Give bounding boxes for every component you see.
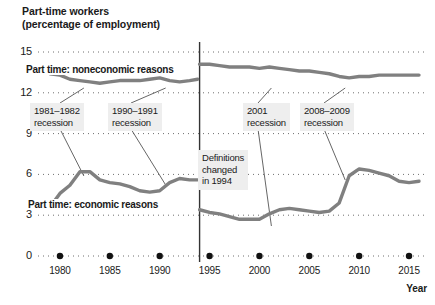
y-axis-tick-label: 0 <box>10 249 32 261</box>
annotation-recession-2001: 2001recession <box>243 103 290 131</box>
annotation-recession-1981-1982: 1981–1982recession <box>30 103 84 131</box>
annotation-line-2: changed <box>202 164 244 176</box>
y-axis-tick-label: 12 <box>10 86 32 98</box>
x-axis-tick-label: 1990 <box>140 265 180 276</box>
annotation-line-1: 2008–2009 <box>304 105 350 117</box>
x-axis-tick-label: 1995 <box>190 265 230 276</box>
annotation-line-2: recession <box>304 117 350 129</box>
annotation-line-1: 2001 <box>247 105 286 117</box>
x-axis-tick-label: 2000 <box>239 265 279 276</box>
x-axis-title: Year <box>406 283 427 294</box>
x-axis-tick-label: 2010 <box>339 265 379 276</box>
annotation-line-3: in 1994 <box>202 175 244 187</box>
annotation-recession-2008-2009: 2008–2009recession <box>300 103 354 131</box>
annotation-line-1: 1981–1982 <box>34 105 80 117</box>
y-axis-tick-label: 9 <box>10 127 32 139</box>
x-axis-tick-label: 1985 <box>90 265 130 276</box>
chart-container: Part-time workers (percentage of employm… <box>0 0 435 305</box>
annotation-line-2: recession <box>112 117 158 129</box>
x-axis-tick-label: 1980 <box>40 265 80 276</box>
annotation-line-1: Definitions <box>202 152 244 164</box>
annotation-line-2: recession <box>247 117 286 129</box>
annotation-recession-1990-1991: 1990–1991recession <box>108 103 162 131</box>
y-axis-tick-label: 15 <box>10 45 32 57</box>
x-axis-tick-label: 2005 <box>289 265 329 276</box>
x-axis-tick-label: 2015 <box>389 265 429 276</box>
annotation-line-1: 1990–1991 <box>112 105 158 117</box>
series-label-economic: Part time: economic reasons <box>26 199 160 210</box>
series-label-noneconomic: Part time: noneconomic reasons <box>24 64 176 75</box>
annotation-definitions-changed: Definitionschangedin 1994 <box>198 150 248 190</box>
series-lines <box>50 64 419 219</box>
x-axis-tick-marks <box>57 253 412 259</box>
y-axis-tick-label: 6 <box>10 167 32 179</box>
annotation-line-2: recession <box>34 117 80 129</box>
